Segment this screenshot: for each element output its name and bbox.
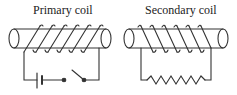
- primary-circuit-wires: [24, 48, 99, 80]
- battery-icon: [37, 73, 42, 88]
- secondary-circuit-wires: [141, 48, 211, 80]
- secondary-core: [124, 29, 228, 48]
- resistor-icon: [147, 76, 205, 84]
- diagram-canvas: [0, 0, 237, 95]
- switch-icon: [62, 70, 86, 82]
